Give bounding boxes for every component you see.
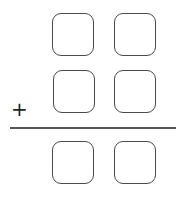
plus-sign: + (11, 100, 27, 118)
addend2-ones-box[interactable] (114, 70, 156, 113)
answer-tens-box[interactable] (52, 141, 94, 184)
addend1-ones-box[interactable] (114, 13, 156, 56)
addend1-tens-box[interactable] (52, 13, 94, 56)
sum-divider-line (10, 127, 176, 129)
answer-ones-box[interactable] (114, 141, 156, 184)
addend2-tens-box[interactable] (53, 70, 95, 113)
